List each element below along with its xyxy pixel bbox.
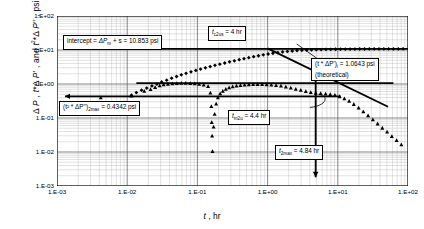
- t2max-post: = 4.84 hr: [292, 147, 319, 154]
- theoretical-line2: (theoretical): [315, 71, 375, 79]
- t2max-sub: 2max: [281, 151, 292, 156]
- intercept-post: + s = 10.853 psi: [111, 37, 158, 44]
- tc2us-sub: c2us: [214, 32, 224, 37]
- d2max-sym: (t² * ΔP''): [63, 103, 88, 110]
- d2max-post: = 0.4342 psi: [99, 103, 136, 110]
- x-axis-label: t , hr: [0, 211, 424, 221]
- tm2u-post: = 4.4 hr: [243, 112, 267, 119]
- y-tick-label: 1.E+02: [20, 13, 54, 19]
- intercept-note: intercept = ΔPm + s = 10.853 psi: [63, 35, 162, 50]
- tm2u-note: tm2u = 4.4 hr: [228, 110, 270, 125]
- theoretical-post: = 1.0643 psi: [338, 60, 375, 67]
- y-tick-label: 1.E-01: [20, 115, 54, 121]
- x-tick-label: 1.E+01: [318, 188, 358, 195]
- d2max-note: (t² * ΔP'')2max = 0.4342 psi: [59, 101, 140, 116]
- chart-figure: Δ P , t*Δ P' , and t2*Δ P'' , psi 1.E-03…: [0, 0, 424, 229]
- x-tick-label: 1.E+00: [248, 188, 288, 195]
- t2max-note: t2max = 4.84 hr: [275, 145, 323, 160]
- tm2u-sub: m2u: [234, 116, 243, 121]
- d2max-sub: 2max: [88, 107, 99, 112]
- x-tick-label: 1.E-03: [37, 188, 77, 195]
- theoretical-note: (t * ΔP')i = 1.0643 psi (theoretical): [311, 58, 379, 81]
- theoretical-sym: (t * ΔP'): [315, 60, 337, 67]
- x-tick-label: 1.E-01: [177, 188, 217, 195]
- y-tick-label: 1.E-02: [20, 149, 54, 155]
- intercept-pre: intercept =: [67, 37, 99, 44]
- y-tick-label: 1.E+01: [20, 47, 54, 53]
- tc2us-post: = 4 hr: [224, 28, 242, 35]
- x-axis-ticks: 1.E-031.E-021.E-011.E+001.E+011.E+02: [0, 186, 424, 200]
- x-tick-label: 1.E-02: [107, 188, 147, 195]
- tc2us-note: tc2us = 4 hr: [208, 26, 246, 41]
- y-tick-label: 1.E+00: [20, 81, 54, 87]
- x-tick-label: 1.E+02: [388, 188, 424, 195]
